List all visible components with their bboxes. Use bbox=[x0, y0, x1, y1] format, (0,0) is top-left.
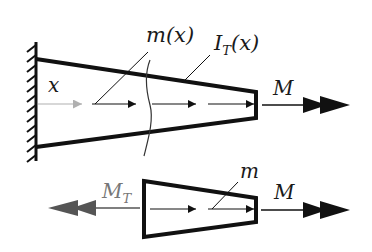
m-x-leader-line bbox=[95, 52, 148, 104]
label-m-bottom: m bbox=[240, 159, 259, 183]
it-x-leader-line bbox=[183, 55, 210, 82]
label-reaction-moment: MT bbox=[101, 179, 132, 206]
label-applied-moment-bottom: M bbox=[273, 180, 295, 204]
label-x-axis: x bbox=[48, 73, 59, 97]
torsion-diagram: m(x) IT(x) x M MT m M bbox=[0, 0, 372, 252]
fixed-wall-support bbox=[27, 42, 36, 162]
label-applied-moment-top: M bbox=[272, 76, 294, 100]
label-m-x: m(x) bbox=[146, 23, 194, 47]
label-it-x: IT(x) bbox=[213, 31, 259, 58]
tapered-shaft-outline bbox=[36, 59, 256, 147]
